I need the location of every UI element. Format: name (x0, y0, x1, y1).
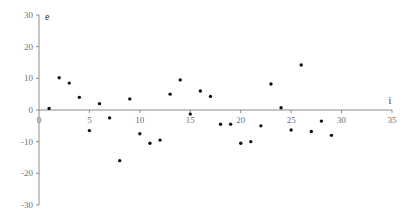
x-tick-label: 15 (186, 115, 196, 125)
y-tick-label: 30 (24, 10, 34, 20)
y-tick-label: -30 (21, 200, 33, 210)
data-point (199, 89, 202, 92)
data-point (57, 76, 60, 79)
x-tick-label: 5 (87, 115, 92, 125)
data-point (310, 130, 313, 133)
data-point (300, 63, 303, 66)
data-point (229, 123, 232, 126)
data-point (259, 124, 262, 127)
y-tick-label: 20 (24, 42, 34, 52)
data-point (209, 95, 212, 98)
data-point (68, 81, 71, 84)
x-tick-label: 20 (236, 115, 246, 125)
data-point (158, 138, 161, 141)
data-point (279, 106, 282, 109)
data-point (320, 119, 323, 122)
data-point (108, 116, 111, 119)
y-tick-label: -10 (21, 137, 33, 147)
y-tick-label: -20 (21, 168, 33, 178)
data-point (239, 142, 242, 145)
data-point (179, 78, 182, 81)
data-point (289, 128, 292, 131)
data-point (78, 96, 81, 99)
y-tick-label: 10 (24, 73, 34, 83)
scatter-chart: 05101520253035 -30-20-100102030 i e (0, 0, 416, 222)
y-axis-title: e (45, 11, 50, 22)
data-points (47, 63, 333, 162)
data-point (330, 134, 333, 137)
x-tick-label: 25 (287, 115, 297, 125)
x-tick-label: 10 (135, 115, 145, 125)
data-point (269, 82, 272, 85)
data-point (138, 132, 141, 135)
x-tick-label: 35 (388, 115, 398, 125)
y-tick-label: 0 (29, 105, 34, 115)
data-point (98, 102, 101, 105)
data-point (47, 107, 50, 110)
x-ticks: 05101520253035 (37, 110, 397, 125)
x-tick-label: 30 (337, 115, 347, 125)
data-point (168, 92, 171, 95)
data-point (118, 159, 121, 162)
x-tick-label: 0 (37, 115, 42, 125)
data-point (249, 140, 252, 143)
data-point (219, 123, 222, 126)
data-point (88, 129, 91, 132)
y-ticks: -30-20-100102030 (21, 10, 39, 210)
data-point (128, 97, 131, 100)
data-point (148, 142, 151, 145)
axes (39, 15, 392, 205)
data-point (189, 112, 192, 115)
x-axis-title: i (389, 95, 392, 106)
